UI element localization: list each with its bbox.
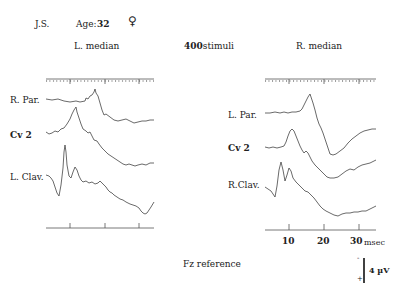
left-top-axis bbox=[46, 79, 154, 84]
trace-l-par bbox=[265, 94, 376, 155]
evoked-potential-chart bbox=[0, 0, 400, 289]
right-bottom-axis bbox=[265, 224, 376, 230]
left-bottom-axis bbox=[46, 223, 154, 228]
left-panel bbox=[46, 79, 154, 228]
trace-l-clav bbox=[46, 145, 154, 214]
right-top-axis bbox=[265, 79, 376, 84]
trace-r-par bbox=[46, 89, 154, 123]
right-panel bbox=[265, 79, 376, 230]
trace-cv2-left bbox=[46, 107, 154, 166]
trace-cv2-right bbox=[265, 129, 376, 178]
